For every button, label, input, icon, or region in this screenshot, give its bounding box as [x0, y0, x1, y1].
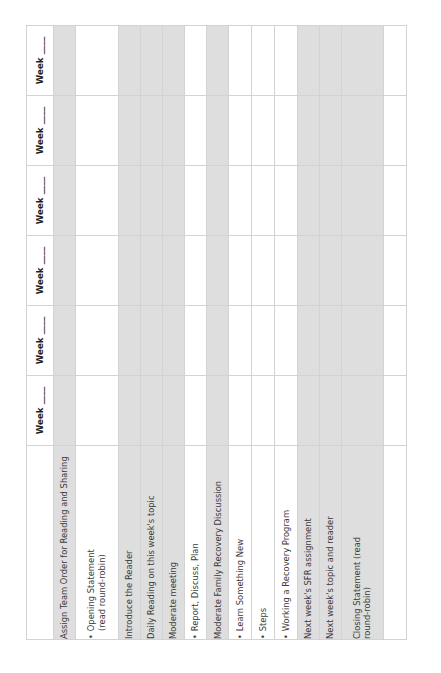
- checkbox-cell-daily-reading-week-6[interactable]: [140, 26, 162, 96]
- checkbox-cell-steps-week-4[interactable]: [252, 166, 275, 236]
- checkbox-cell-learn-something-new-week-5[interactable]: [229, 96, 252, 166]
- checkbox-cell-working-a-recovery-program-week-1[interactable]: [275, 376, 298, 446]
- checkbox-cell-next-week-sfr-assignment-week-3[interactable]: [298, 236, 320, 306]
- checkbox-cell-steps-week-1[interactable]: [252, 376, 275, 446]
- checkbox-cell-steps-week-5[interactable]: [252, 96, 275, 166]
- checkbox-cell-opening-statement-week-6[interactable]: [75, 26, 118, 96]
- checkbox-cell-next-week-topic-and-reader-week-5[interactable]: [319, 96, 341, 166]
- checkbox-cell-daily-reading-week-4[interactable]: [140, 166, 162, 236]
- checkbox-cell-learn-something-new-week-6[interactable]: [229, 26, 252, 96]
- checkbox-cell-steps-week-2[interactable]: [252, 306, 275, 376]
- checkbox-cell-learn-something-new-week-4[interactable]: [229, 166, 252, 236]
- checkbox-cell-opening-statement-week-4[interactable]: [75, 166, 118, 236]
- checkbox-cell-learn-something-new-week-2[interactable]: [229, 306, 252, 376]
- checkbox-cell-learn-something-new-week-1[interactable]: [229, 376, 252, 446]
- checkbox-cell-introduce-the-reader-week-4[interactable]: [118, 166, 140, 236]
- task-label-steps: Steps: [252, 446, 275, 640]
- checkbox-cell-assign-team-order-week-1[interactable]: [54, 376, 76, 446]
- checkbox-cell-daily-reading-week-2[interactable]: [140, 306, 162, 376]
- checkbox-cell-closing-statement-week-3[interactable]: [341, 236, 383, 306]
- checkbox-cell-next-week-sfr-assignment-week-4[interactable]: [298, 166, 320, 236]
- week-column-header-5: Week ____: [27, 96, 54, 166]
- checkbox-cell-assign-team-order-week-6[interactable]: [54, 26, 76, 96]
- header-corner-spacer: [27, 446, 54, 640]
- checkbox-cell-assign-team-order-week-5[interactable]: [54, 96, 76, 166]
- table-row: Introduce the Reader: [118, 26, 140, 640]
- week-column-header-1: Week ____: [27, 376, 54, 446]
- checkbox-cell-moderate-meeting-week-6[interactable]: [162, 26, 184, 96]
- checkbox-cell-moderate-meeting-week-3[interactable]: [162, 236, 184, 306]
- checkbox-cell-moderate-family-recovery-discussion-week-3[interactable]: [207, 236, 229, 306]
- checkbox-cell-working-a-recovery-program-week-5[interactable]: [275, 96, 298, 166]
- checkbox-cell-report-discuss-plan-week-5[interactable]: [184, 96, 207, 166]
- checkbox-cell-working-a-recovery-program-week-6[interactable]: [275, 26, 298, 96]
- checkbox-cell-moderate-meeting-week-2[interactable]: [162, 306, 184, 376]
- checkbox-cell-daily-reading-week-5[interactable]: [140, 96, 162, 166]
- table-row: Moderate meeting: [162, 26, 184, 640]
- checkbox-cell-daily-reading-week-1[interactable]: [140, 376, 162, 446]
- checkbox-cell-blank-row-week-6[interactable]: [384, 26, 407, 96]
- checkbox-cell-closing-statement-week-6[interactable]: [341, 26, 383, 96]
- checkbox-cell-moderate-family-recovery-discussion-week-4[interactable]: [207, 166, 229, 236]
- checkbox-cell-report-discuss-plan-week-6[interactable]: [184, 26, 207, 96]
- checkbox-cell-next-week-sfr-assignment-week-2[interactable]: [298, 306, 320, 376]
- checkbox-cell-learn-something-new-week-3[interactable]: [229, 236, 252, 306]
- checkbox-cell-assign-team-order-week-4[interactable]: [54, 166, 76, 236]
- checkbox-cell-introduce-the-reader-week-2[interactable]: [118, 306, 140, 376]
- checkbox-cell-closing-statement-week-4[interactable]: [341, 166, 383, 236]
- week-header-label: Week ____: [35, 387, 45, 435]
- checkbox-cell-introduce-the-reader-week-1[interactable]: [118, 376, 140, 446]
- checkbox-cell-opening-statement-week-2[interactable]: [75, 306, 118, 376]
- checkbox-cell-blank-row-week-3[interactable]: [384, 236, 407, 306]
- checkbox-cell-report-discuss-plan-week-4[interactable]: [184, 166, 207, 236]
- checkbox-cell-assign-team-order-week-3[interactable]: [54, 236, 76, 306]
- checkbox-cell-report-discuss-plan-week-3[interactable]: [184, 236, 207, 306]
- checkbox-cell-steps-week-6[interactable]: [252, 26, 275, 96]
- task-text-line: (read round-robin): [97, 446, 108, 639]
- checkbox-cell-opening-statement-week-1[interactable]: [75, 376, 118, 446]
- checkbox-cell-introduce-the-reader-week-3[interactable]: [118, 236, 140, 306]
- table-row: Steps: [252, 26, 275, 640]
- table-row: Daily Reading on this week's topic: [140, 26, 162, 640]
- checkbox-cell-steps-week-3[interactable]: [252, 236, 275, 306]
- checkbox-cell-next-week-topic-and-reader-week-4[interactable]: [319, 166, 341, 236]
- checkbox-cell-blank-row-week-4[interactable]: [384, 166, 407, 236]
- checkbox-cell-next-week-topic-and-reader-week-6[interactable]: [319, 26, 341, 96]
- checkbox-cell-report-discuss-plan-week-2[interactable]: [184, 306, 207, 376]
- table-row: Report, Discuss, Plan: [184, 26, 207, 640]
- checkbox-cell-moderate-family-recovery-discussion-week-2[interactable]: [207, 306, 229, 376]
- checkbox-cell-report-discuss-plan-week-1[interactable]: [184, 376, 207, 446]
- task-label-working-a-recovery-program: Working a Recovery Program: [275, 446, 298, 640]
- checkbox-cell-working-a-recovery-program-week-3[interactable]: [275, 236, 298, 306]
- checkbox-cell-working-a-recovery-program-week-2[interactable]: [275, 306, 298, 376]
- checkbox-cell-moderate-family-recovery-discussion-week-6[interactable]: [207, 26, 229, 96]
- checkbox-cell-moderate-family-recovery-discussion-week-1[interactable]: [207, 376, 229, 446]
- checkbox-cell-blank-row-week-2[interactable]: [384, 306, 407, 376]
- checkbox-cell-working-a-recovery-program-week-4[interactable]: [275, 166, 298, 236]
- checkbox-cell-next-week-sfr-assignment-week-5[interactable]: [298, 96, 320, 166]
- checkbox-cell-introduce-the-reader-week-6[interactable]: [118, 26, 140, 96]
- checkbox-cell-moderate-meeting-week-1[interactable]: [162, 376, 184, 446]
- checkbox-cell-closing-statement-week-5[interactable]: [341, 96, 383, 166]
- checkbox-cell-assign-team-order-week-2[interactable]: [54, 306, 76, 376]
- checkbox-cell-next-week-topic-and-reader-week-3[interactable]: [319, 236, 341, 306]
- task-label-next-week-sfr-assignment: Next week's SFR assignment: [298, 446, 320, 640]
- checkbox-cell-daily-reading-week-3[interactable]: [140, 236, 162, 306]
- checkbox-cell-moderate-family-recovery-discussion-week-5[interactable]: [207, 96, 229, 166]
- checkbox-cell-opening-statement-week-3[interactable]: [75, 236, 118, 306]
- checkbox-cell-next-week-sfr-assignment-week-6[interactable]: [298, 26, 320, 96]
- task-text-line: Daily Reading on this week's topic: [146, 446, 157, 639]
- task-label-introduce-the-reader: Introduce the Reader: [118, 446, 140, 640]
- checkbox-cell-moderate-meeting-week-5[interactable]: [162, 96, 184, 166]
- checkbox-cell-blank-row-week-1[interactable]: [384, 376, 407, 446]
- week-header-label: Week ____: [35, 177, 45, 225]
- checkbox-cell-opening-statement-week-5[interactable]: [75, 96, 118, 166]
- checkbox-cell-closing-statement-week-1[interactable]: [341, 376, 383, 446]
- checkbox-cell-moderate-meeting-week-4[interactable]: [162, 166, 184, 236]
- checkbox-cell-next-week-topic-and-reader-week-2[interactable]: [319, 306, 341, 376]
- checkbox-cell-introduce-the-reader-week-5[interactable]: [118, 96, 140, 166]
- checkbox-cell-next-week-topic-and-reader-week-1[interactable]: [319, 376, 341, 446]
- checkbox-cell-closing-statement-week-2[interactable]: [341, 306, 383, 376]
- checkbox-cell-blank-row-week-5[interactable]: [384, 96, 407, 166]
- checkbox-cell-next-week-sfr-assignment-week-1[interactable]: [298, 376, 320, 446]
